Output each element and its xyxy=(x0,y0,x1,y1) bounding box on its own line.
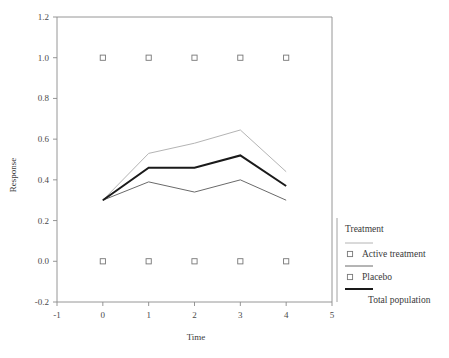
y-tick-label: 0.2 xyxy=(38,216,49,226)
plot-frame xyxy=(57,17,332,302)
line-chart: -1012345 -0.20.00.20.40.60.81.01.2 Time … xyxy=(0,0,449,358)
y-tick-label: 0.0 xyxy=(38,256,50,266)
x-tick-label: 0 xyxy=(101,310,106,320)
legend-entry-label: Placebo xyxy=(362,272,392,282)
square-marker xyxy=(100,55,105,60)
chart-figure: -1012345 -0.20.00.20.40.60.81.01.2 Time … xyxy=(0,0,449,358)
square-marker xyxy=(284,55,289,60)
y-tick-label: 0.8 xyxy=(38,93,50,103)
x-tick-label: 4 xyxy=(284,310,289,320)
data-series xyxy=(103,130,286,200)
y-axis-title: Response xyxy=(8,158,18,193)
y-tick-label: 1.0 xyxy=(38,53,50,63)
square-marker xyxy=(284,259,289,264)
x-axis-ticks: -1012345 xyxy=(53,302,335,320)
y-tick-label: 0.6 xyxy=(38,134,50,144)
y-tick-label: 1.2 xyxy=(38,12,49,22)
series-line xyxy=(103,155,286,200)
square-marker xyxy=(192,55,197,60)
x-tick-label: 3 xyxy=(238,310,243,320)
x-tick-label: 2 xyxy=(192,310,197,320)
y-tick-label: -0.2 xyxy=(35,297,49,307)
legend-square-marker xyxy=(347,251,352,256)
legend-entry-label: Active treatment xyxy=(362,249,426,259)
y-axis-ticks: -0.20.00.20.40.60.81.01.2 xyxy=(35,12,57,307)
legend-entry-label: Total population xyxy=(368,295,431,305)
square-marker xyxy=(238,259,243,264)
square-marker xyxy=(146,259,151,264)
x-tick-label: 5 xyxy=(330,310,335,320)
chart-legend: Treatment Active treatmentPlaceboTotal p… xyxy=(337,218,431,305)
legend-title: Treatment xyxy=(345,224,384,234)
square-marker xyxy=(100,259,105,264)
square-marker xyxy=(192,259,197,264)
x-tick-label: -1 xyxy=(53,310,61,320)
legend-square-marker xyxy=(347,274,352,279)
square-marker xyxy=(238,55,243,60)
y-tick-label: 0.4 xyxy=(38,175,50,185)
square-marker xyxy=(146,55,151,60)
series-line xyxy=(103,180,286,200)
x-tick-label: 1 xyxy=(146,310,151,320)
marker-rows xyxy=(100,55,289,264)
x-axis-title: Time xyxy=(187,332,206,342)
